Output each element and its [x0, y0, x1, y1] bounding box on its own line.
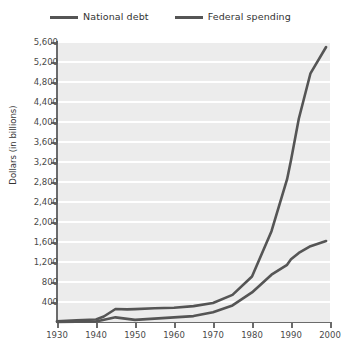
line-chart: National debt Federal spending Dollars (… — [0, 0, 341, 350]
series-layer — [0, 0, 341, 350]
series-line — [57, 47, 326, 321]
series-line — [57, 241, 326, 322]
